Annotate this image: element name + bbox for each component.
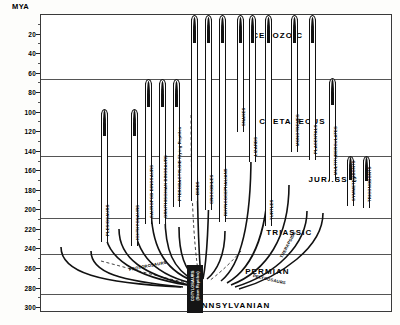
branch-label: SAUROPOD DINOSAURS: [150, 165, 154, 218]
axis-tick-label: 200: [0, 206, 40, 213]
branch-label: MONOTREMES: [296, 114, 300, 146]
branch-label: PTERODACTYLOID Flying Reptiles: [178, 126, 182, 200]
axis-tick-label: 220: [0, 225, 40, 232]
branch-label: PLACENTALS: [314, 124, 318, 153]
branch-label: LIZARDS: [254, 136, 258, 155]
trunk-label: COTYLOSAURS(Stem Reptiles): [191, 263, 200, 309]
axis-tick-label: 120: [0, 128, 40, 135]
branch-stem: [191, 19, 198, 201]
branch-label: ORNITHISCHIAN DINOSAURS: [164, 155, 168, 218]
axis-title: MYA: [12, 2, 29, 11]
branch-label: BIRDS: [196, 181, 200, 195]
axis-tick-label: 100: [0, 108, 40, 115]
branch-label: TURTLES: [270, 200, 274, 220]
axis-tick-label: 180: [0, 186, 40, 193]
lineage-branch: [265, 15, 272, 226]
branch-label: SYMMETRODONTS: [352, 160, 356, 201]
branch-arcs: [41, 15, 393, 313]
axis-tick-label: 40: [0, 50, 40, 57]
chart-frame: CENOZOICCRETACEOUSJURASSICTRIASSICPERMIA…: [40, 14, 392, 312]
axis-tick-label: 80: [0, 89, 40, 96]
axis-tick-label: 280: [0, 284, 40, 291]
branch-label: PLESIOSAURS: [106, 204, 110, 236]
branch-label: TRICONODONTS: [368, 167, 372, 203]
axis-tick-label: 240: [0, 245, 40, 252]
branch-label: MULTITUBERCULATES: [334, 126, 338, 175]
branch-label: SNAKES: [242, 108, 246, 126]
axis-tick-label: 260: [0, 265, 40, 272]
lineage-branch: [191, 15, 198, 201]
axis-tick-label: 140: [0, 147, 40, 154]
branch-stem: [265, 19, 272, 226]
branch-label: RHYNCOCEPHALIANS: [224, 168, 228, 216]
branch-label: CROCODILES: [210, 175, 214, 204]
branch-label: ICHTHYOSAURS: [136, 204, 140, 239]
phylogenetic-tree-figure: MYA 204060801001201401601802002202402602…: [0, 0, 400, 325]
axis-tick-label: 60: [0, 69, 40, 76]
axis-tick-label: 300: [0, 304, 40, 311]
axis-tick-label: 20: [0, 30, 40, 37]
axis-tick-label: 160: [0, 167, 40, 174]
